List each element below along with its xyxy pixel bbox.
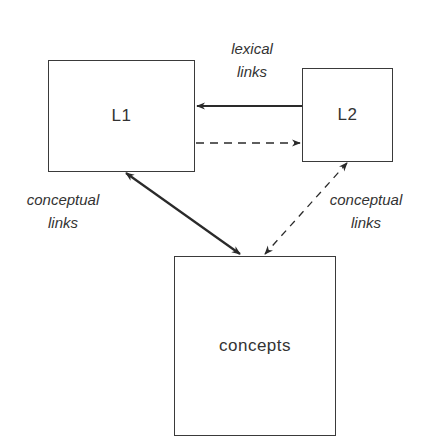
l1-label: L1: [112, 106, 132, 126]
diagram-canvas: L1 L2 concepts lexical links conceptual …: [0, 0, 435, 438]
conceptual-links-right-line2: links: [317, 211, 415, 234]
concepts-node: concepts: [174, 256, 336, 436]
conceptual-links-left-line1: conceptual: [14, 188, 112, 211]
lexical-links-label-line2: links: [210, 60, 294, 83]
conceptual-links-right-line1: conceptual: [317, 188, 415, 211]
l2-node: L2: [302, 68, 393, 162]
lexical-links-label-line1: lexical: [210, 37, 294, 60]
conceptual-links-left-label: conceptual links: [14, 188, 112, 234]
lexical-links-label: lexical links: [210, 37, 294, 83]
l2-label: L2: [338, 105, 358, 125]
conceptual-links-right-label: conceptual links: [317, 188, 415, 234]
conceptual-links-left-line2: links: [14, 211, 112, 234]
conceptual-link-l1-concepts-arrow: [126, 173, 240, 254]
l1-node: L1: [48, 60, 195, 172]
concepts-label: concepts: [219, 336, 291, 356]
